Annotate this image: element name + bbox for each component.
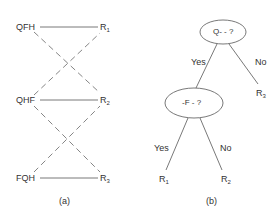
root-yes-label: Yes <box>191 57 206 67</box>
node-qfh: QFH <box>16 22 35 32</box>
leaf-r2: R2 <box>221 174 231 187</box>
r1-sub: 1 <box>107 27 110 33</box>
child-no-label: No <box>220 143 232 153</box>
caption-a: (a) <box>59 196 70 206</box>
leaf-r1-sub: 1 <box>166 179 169 185</box>
r3-sub: 3 <box>107 178 110 184</box>
node-qhf: QHF <box>16 95 35 105</box>
node-r1-a: R1 <box>100 22 110 35</box>
child-node-label: -F - ? <box>182 98 201 108</box>
node-fqh: FQH <box>16 173 35 183</box>
root-no-label: No <box>255 57 267 67</box>
root-no-branch <box>229 44 258 84</box>
leaf-r3-sub: 3 <box>263 93 266 99</box>
r2-sub: 2 <box>107 100 110 106</box>
leaf-r3: R3 <box>256 88 266 101</box>
edge-qhf-r1-dashed <box>34 33 100 95</box>
diagram-figure: QFH QHF FQH R1 R2 R3 (a) Q- - ? -F - ? Y… <box>0 0 280 216</box>
caption-b: (b) <box>206 196 217 206</box>
node-r3-a: R3 <box>100 173 110 186</box>
leaf-r1: R1 <box>159 174 169 187</box>
child-yes-branch <box>166 118 188 170</box>
diagram-lines <box>0 0 280 216</box>
root-node-label: Q- - ? <box>213 27 233 37</box>
edge-qfh-r2-dashed <box>34 32 100 93</box>
child-yes-label: Yes <box>154 143 169 153</box>
leaf-r2-sub: 2 <box>228 179 231 185</box>
child-no-branch <box>200 118 222 170</box>
node-r2-a: R2 <box>100 95 110 108</box>
